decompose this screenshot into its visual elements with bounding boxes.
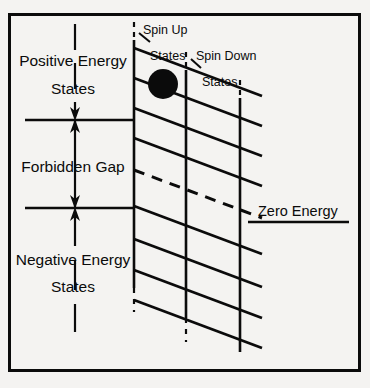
spin-down-label-line2: States [202,75,237,89]
positive-energy-label-line1: Positive Energy [19,52,127,69]
forbidden-gap-label: Forbidden Gap [21,158,124,175]
negative-energy-label-line1: Negative Energy [16,251,131,268]
diagram-canvas: Positive Energy States Forbidden Gap Neg… [0,0,370,388]
occupied-state-marker [148,69,178,99]
spin-up-label-line2: States [150,49,185,63]
spin-up-label-line1: Spin Up [143,23,188,37]
negative-energy-label-line2: States [51,278,95,295]
zero-energy-label: Zero Energy [258,203,339,219]
energy-states-diagram: Positive Energy States Forbidden Gap Neg… [0,0,370,388]
spin-down-label-line1: Spin Down [196,49,256,63]
positive-energy-label-line2: States [51,80,95,97]
